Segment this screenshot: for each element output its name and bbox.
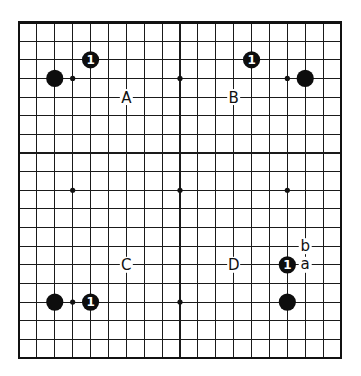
point-letter: A (121, 89, 132, 107)
numbered-stone: 1 (82, 51, 99, 68)
move-number-label: 1 (86, 295, 94, 309)
black-stone (46, 70, 63, 87)
numbered-stone: 1 (82, 293, 99, 310)
point-letter: a (301, 255, 310, 273)
point-letter: D (228, 256, 240, 274)
point-label-A: A (120, 89, 133, 107)
point-label-a: a (299, 255, 312, 273)
numbered-stone: 1 (243, 51, 260, 68)
move-number-label: 1 (283, 258, 291, 272)
star-point-icon (70, 299, 75, 304)
star-point-icon (177, 188, 182, 193)
point-label-b: b (299, 237, 312, 255)
point-label-D: D (227, 256, 240, 274)
go-board-diagram: 1111 ABCDba (0, 0, 361, 376)
point-letter: B (229, 89, 239, 107)
star-point-icon (70, 76, 75, 81)
point-letter: b (300, 237, 310, 255)
point-letter: C (121, 256, 131, 274)
go-board: 1111 ABCDba (0, 0, 361, 376)
star-point-icon (285, 188, 290, 193)
black-stone (46, 293, 63, 310)
star-point-icon (285, 76, 290, 81)
black-stone (297, 70, 314, 87)
star-point-icon (177, 299, 182, 304)
move-number-label: 1 (86, 53, 94, 67)
star-point-icon (177, 76, 182, 81)
black-stone (279, 293, 296, 310)
point-label-C: C (120, 256, 133, 274)
move-number-label: 1 (247, 53, 255, 67)
numbered-stone: 1 (279, 256, 296, 273)
point-label-B: B (227, 89, 240, 107)
star-point-icon (70, 188, 75, 193)
